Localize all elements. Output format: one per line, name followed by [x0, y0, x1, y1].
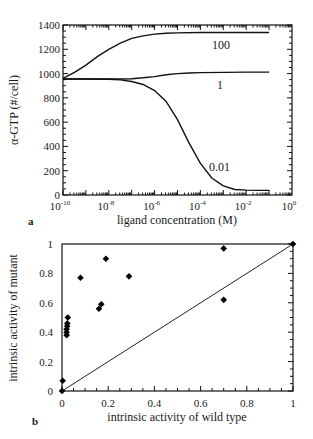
panel-b-x-axis-label: intrinsic activity of wild type [107, 410, 246, 424]
panel-a-frame [63, 25, 292, 195]
curve-1 [63, 72, 269, 79]
x-tick-label: 10-2 [235, 199, 252, 212]
curve-label-100: 100 [212, 38, 230, 52]
x-tick-label: 10-4 [189, 199, 206, 212]
data-point [220, 245, 227, 252]
x-tick-label: 0.4 [148, 397, 162, 409]
x-tick-label: 0.8 [240, 397, 254, 409]
panel-a-chart: 0200400600800100012001400 10-1010-810-61… [7, 19, 297, 227]
panel-a-label: a [28, 215, 34, 227]
curve-label-1: 1 [217, 78, 223, 92]
y-tick-label: 0.8 [39, 267, 53, 279]
x-tick-label: 0.6 [194, 397, 208, 409]
y-tick-label: 200 [44, 165, 61, 177]
data-point [64, 314, 71, 321]
x-tick-label: 100 [282, 199, 297, 212]
x-tick-label: 0.2 [101, 397, 115, 409]
data-point [290, 241, 297, 248]
data-point [126, 273, 133, 280]
y-tick-label: 1 [48, 238, 54, 250]
x-tick-label: 0 [59, 397, 65, 409]
data-point [59, 388, 66, 395]
x-tick-label: 10-10 [50, 199, 71, 212]
panel-a-y-tick-labels: 0200400600800100012001400 [38, 19, 61, 201]
y-tick-label: 400 [44, 140, 61, 152]
y-tick-label: 0 [48, 385, 54, 397]
panel-a-y-axis-label: α-GTP (#/cell) [7, 75, 21, 145]
panel-a-x-tick-labels: 10-1010-810-610-410-2100 [50, 199, 297, 212]
y-tick-label: 1000 [38, 68, 61, 80]
x-tick-label: 10-6 [143, 199, 160, 212]
y-tick-label: 0.2 [39, 356, 53, 368]
data-point [103, 255, 110, 262]
panel-b-y-axis-label: intrinsic activity of mutant [6, 254, 20, 382]
data-point [220, 297, 227, 304]
panel-a-curves [63, 33, 269, 191]
panel-b-label: b [32, 415, 38, 427]
panel-b-chart: 00.20.40.60.81 00.20.40.60.81 intrinsic … [6, 238, 296, 427]
data-point [77, 275, 84, 282]
y-tick-label: 800 [44, 92, 61, 104]
data-point [59, 377, 66, 384]
y-tick-label: 600 [44, 116, 61, 128]
figure: 0200400600800100012001400 10-1010-810-61… [0, 0, 313, 439]
curve-label-0-01: 0.01 [209, 160, 230, 174]
x-tick-label: 10-8 [97, 199, 114, 212]
y-tick-label: 0.4 [39, 326, 53, 338]
x-tick-label: 1 [290, 397, 296, 409]
curve-0-01 [63, 79, 269, 190]
panel-b-x-tick-labels: 00.20.40.60.81 [59, 397, 296, 409]
panel-a-ticks [63, 25, 292, 195]
y-tick-label: 1400 [38, 19, 61, 31]
y-tick-label: 0.6 [39, 297, 53, 309]
identity-line [62, 244, 293, 391]
panel-a-x-axis-label: ligand concentration (M) [117, 213, 237, 227]
y-tick-label: 1200 [38, 43, 61, 55]
panel-b-y-tick-labels: 00.20.40.60.81 [39, 238, 53, 397]
